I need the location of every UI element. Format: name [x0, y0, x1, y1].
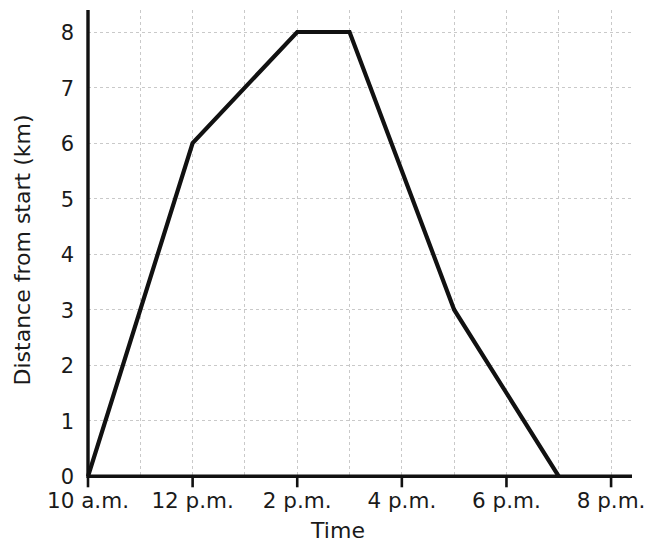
y-axis-tick-label: 4	[61, 243, 74, 267]
y-axis-tick-label: 2	[61, 354, 74, 378]
y-axis-tick-labels: 012345678	[61, 21, 74, 489]
x-axis-tick-label: 8 p.m.	[577, 488, 646, 513]
y-axis-tick-label: 7	[61, 77, 74, 101]
y-axis-tick-label: 3	[61, 299, 74, 323]
y-axis-tick-label: 8	[61, 21, 74, 45]
y-axis-tick-label: 5	[61, 188, 74, 212]
y-axis-tick-label: 6	[61, 132, 74, 156]
x-axis-title: Time	[310, 518, 365, 543]
y-axis-tick-label: 1	[61, 410, 74, 434]
x-axis-tick-label: 10 a.m.	[47, 488, 129, 513]
line-chart: 10 a.m.12 p.m.2 p.m.4 p.m.6 p.m.8 p.m. 0…	[0, 0, 646, 549]
y-axis-title: Distance from start (km)	[10, 115, 35, 386]
chart-canvas: 10 a.m.12 p.m.2 p.m.4 p.m.6 p.m.8 p.m. 0…	[0, 0, 646, 549]
x-axis-tick-label: 12 p.m.	[151, 488, 233, 513]
x-axis-tick-label: 6 p.m.	[472, 488, 541, 513]
y-axis-tick-label: 0	[61, 465, 74, 489]
x-axis-tick-label: 2 p.m.	[263, 488, 332, 513]
x-axis-tick-label: 4 p.m.	[367, 488, 436, 513]
chart-background	[0, 0, 646, 549]
